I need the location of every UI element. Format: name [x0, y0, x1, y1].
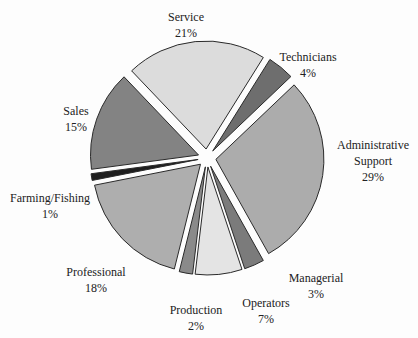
- label-pct: 29%: [337, 169, 409, 185]
- label-text: Support: [337, 153, 409, 169]
- label-pct: 1%: [10, 206, 90, 222]
- label-professional: Professional 18%: [66, 264, 125, 296]
- label-text: Professional: [66, 264, 125, 280]
- label-pct: 4%: [279, 65, 336, 81]
- label-text: Technicians: [279, 49, 336, 65]
- label-production: Production 2%: [170, 302, 223, 334]
- label-pct: 7%: [242, 311, 289, 327]
- label-operators: Operators 7%: [242, 295, 289, 327]
- label-farming-fishing: Farming/Fishing 1%: [10, 190, 90, 222]
- label-managerial: Managerial 3%: [289, 270, 344, 302]
- label-pct: 21%: [168, 25, 204, 41]
- label-text: Operators: [242, 295, 289, 311]
- label-pct: 18%: [66, 280, 125, 296]
- label-pct: 15%: [63, 119, 88, 135]
- label-text: Managerial: [289, 270, 344, 286]
- label-text: Farming/Fishing: [10, 190, 90, 206]
- label-text: Administrative: [337, 137, 409, 153]
- label-pct: 2%: [170, 318, 223, 334]
- label-pct: 3%: [289, 286, 344, 302]
- label-technicians: Technicians 4%: [279, 49, 336, 81]
- pie-chart: Service 21% Technicians 4% Administrativ…: [0, 0, 418, 338]
- label-text: Service: [168, 9, 204, 25]
- label-service: Service 21%: [168, 9, 204, 41]
- label-sales: Sales 15%: [63, 103, 88, 135]
- label-text: Production: [170, 302, 223, 318]
- label-administrative-support: Administrative Support 29%: [337, 137, 409, 185]
- label-text: Sales: [63, 103, 88, 119]
